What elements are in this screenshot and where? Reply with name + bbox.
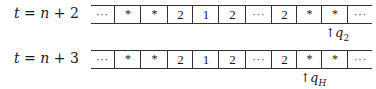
tape-cell: 2 [218, 51, 246, 68]
tape-cell: * [114, 51, 141, 68]
tape-cell: ··· [91, 51, 114, 68]
tape-row-t-n-plus-2: t = n + 2 ··· * * 2 1 2 ··· 2 * * ··· ↑q… [0, 0, 376, 44]
turing-tape: ··· * * 2 1 2 ··· 2 * * ··· [91, 5, 372, 24]
tape-cell: ··· [245, 51, 272, 68]
tape-cell: 2 [167, 51, 193, 68]
tape-cell: 2 [271, 51, 297, 68]
tape-cell: * [296, 6, 322, 23]
n-variable: n [40, 5, 49, 21]
tape-cell: * [114, 6, 141, 23]
tape-cell: ··· [245, 6, 272, 23]
up-arrow-icon: ↑ [325, 26, 335, 40]
equals-sign: = [20, 5, 41, 21]
up-arrow-icon: ↑ [300, 71, 310, 85]
tape-cell: ··· [347, 51, 373, 68]
equals-sign: = [20, 50, 41, 66]
tape-row-t-n-plus-3: t = n + 3 ··· * * 2 1 2 ··· 2 * * ··· ↑q… [0, 45, 376, 89]
tape-cell: * [321, 51, 348, 68]
turing-tape: ··· * * 2 1 2 ··· 2 * * ··· [91, 50, 372, 69]
tape-cell: * [296, 51, 322, 68]
tape-cell: 1 [192, 51, 219, 68]
tape-cell: 2 [271, 6, 297, 23]
state-subscript: 2 [343, 33, 349, 43]
time-label: t = n + 2 [14, 5, 79, 21]
tape-head-marker: ↑qH [300, 70, 326, 88]
time-offset: + 2 [49, 5, 79, 21]
tape-cell: 2 [218, 6, 246, 23]
tape-cell: * [140, 6, 168, 23]
tape-cell: ··· [347, 6, 373, 23]
tape-head-marker: ↑q2 [325, 25, 349, 43]
tape-cell: 2 [167, 6, 193, 23]
tape-cell: * [321, 6, 348, 23]
tape-cell: 1 [192, 6, 219, 23]
tape-cell: * [140, 51, 168, 68]
tape-cell: ··· [91, 6, 114, 23]
time-offset: + 3 [49, 50, 79, 66]
time-label: t = n + 3 [14, 50, 79, 66]
state-subscript: H [318, 78, 326, 88]
n-variable: n [40, 50, 49, 66]
